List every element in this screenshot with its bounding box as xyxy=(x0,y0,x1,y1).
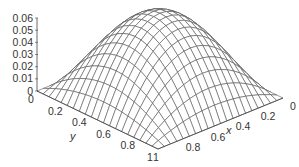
svg-text:0.8: 0.8 xyxy=(120,139,135,151)
svg-text:0: 0 xyxy=(28,93,34,105)
svg-text:0.4: 0.4 xyxy=(236,120,251,132)
svg-text:0.6: 0.6 xyxy=(96,128,111,140)
svg-text:0.03: 0.03 xyxy=(13,48,34,60)
svg-text:0.06: 0.06 xyxy=(13,12,34,24)
svg-text:0.01: 0.01 xyxy=(13,72,34,84)
x-axis-label: x xyxy=(225,124,232,136)
svg-text:0.05: 0.05 xyxy=(13,24,34,36)
svg-text:0.4: 0.4 xyxy=(72,116,87,128)
svg-text:0.2: 0.2 xyxy=(48,105,63,117)
surface-plot: 00.010.020.030.040.050.06 00.20.40.60.81… xyxy=(0,0,299,167)
svg-text:0: 0 xyxy=(290,100,296,112)
svg-text:1: 1 xyxy=(147,151,153,163)
svg-text:0.02: 0.02 xyxy=(13,60,34,72)
svg-text:0.04: 0.04 xyxy=(13,36,34,48)
svg-text:0.2: 0.2 xyxy=(261,110,276,122)
svg-text:1: 1 xyxy=(153,151,159,163)
z-axis-ticks: 00.010.020.030.040.050.06 xyxy=(13,12,38,97)
y-axis-label: y xyxy=(69,130,77,142)
svg-text:0.6: 0.6 xyxy=(211,131,226,143)
svg-text:0.8: 0.8 xyxy=(186,141,201,153)
